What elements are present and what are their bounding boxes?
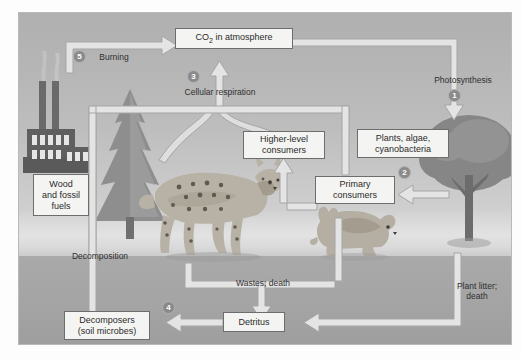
step-badge-5: 5 bbox=[73, 50, 86, 63]
step-badge-2: 2 bbox=[398, 166, 411, 179]
wastes-death-label: Wastes; death bbox=[215, 278, 311, 288]
decomposition-label: Decomposition bbox=[57, 251, 143, 261]
detritus-box[interactable]: Detritus bbox=[223, 312, 285, 332]
rabbit-icon bbox=[309, 205, 401, 261]
burning-label: Burning bbox=[89, 52, 139, 62]
step-badge-1: 1 bbox=[448, 89, 461, 102]
primary-consumers-box[interactable]: Primary consumers bbox=[315, 176, 395, 204]
wood-and-fossil-fuels-box[interactable]: Wood and fossil fuels bbox=[33, 174, 89, 216]
step-badge-3: 3 bbox=[187, 70, 200, 83]
co2-box[interactable]: CO2 in atmosphere bbox=[175, 28, 293, 49]
cellular-respiration-label: Cellular respiration bbox=[150, 87, 290, 97]
plant-litter-death-label: Plant litter; death bbox=[445, 281, 509, 301]
lynx-icon bbox=[137, 153, 289, 263]
broadleaf-tree-icon bbox=[417, 97, 512, 253]
co2-box-label: CO2 in atmosphere bbox=[196, 32, 273, 46]
plants-box[interactable]: Plants, algae, cyanobacteria bbox=[357, 129, 449, 158]
step-badge-4: 4 bbox=[162, 301, 175, 314]
higher-level-consumers-box[interactable]: Higher-level consumers bbox=[243, 131, 325, 159]
carbon-cycle-figure: .a { fill:#e4e4e4; stroke:#a5a5a5; strok… bbox=[0, 0, 521, 359]
decomposers-box[interactable]: Decomposers (soil microbes) bbox=[64, 311, 150, 340]
carbon-cycle-diagram: .a { fill:#e4e4e4; stroke:#a5a5a5; strok… bbox=[18, 12, 512, 345]
photosynthesis-label: Photosynthesis bbox=[417, 75, 509, 85]
